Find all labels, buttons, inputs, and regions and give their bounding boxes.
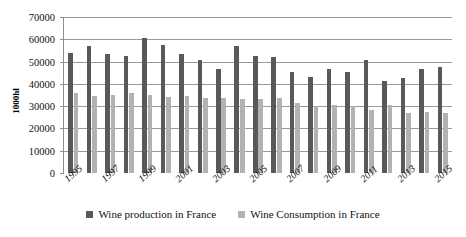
bar-wine-consumption (148, 95, 153, 173)
bar-wine-production (105, 54, 110, 173)
bar-group (434, 17, 452, 173)
bar-wine-consumption (74, 93, 79, 173)
bar-group (267, 17, 285, 173)
bar-series-container (64, 17, 452, 173)
bar-group (249, 17, 267, 173)
bar-group (175, 17, 193, 173)
y-axis-tick-mark (60, 17, 64, 18)
bar-group (138, 17, 156, 173)
bar-group (360, 17, 378, 173)
bar-wine-consumption (203, 98, 208, 173)
bar-wine-consumption (92, 96, 97, 173)
legend-label: Wine Consumption in France (250, 208, 379, 220)
bar-wine-production (179, 54, 184, 173)
bar-wine-consumption (351, 106, 356, 173)
chart-legend: Wine production in FranceWine Consumptio… (0, 208, 466, 220)
bar-wine-consumption (111, 95, 116, 173)
y-axis-tick-label: 10000 (29, 145, 55, 156)
bar-group (304, 17, 322, 173)
legend-swatch-icon (238, 211, 245, 218)
legend-swatch-icon (86, 211, 93, 218)
bar-wine-production (142, 38, 147, 173)
bar-group (415, 17, 433, 173)
bar-wine-production (124, 56, 129, 173)
bar-wine-production (438, 67, 443, 173)
bar-wine-production (419, 69, 424, 173)
bar-wine-consumption (277, 98, 282, 173)
bar-wine-production (364, 60, 369, 173)
bar-wine-consumption (314, 106, 319, 173)
bar-wine-production (401, 78, 406, 173)
x-axis-tick-labels: 1995199719992001200320052007200920112013… (64, 176, 452, 212)
bar-wine-production (161, 45, 166, 173)
bar-group (397, 17, 415, 173)
y-axis-tick-label: 50000 (29, 56, 55, 67)
y-axis-tick-label: 20000 (29, 123, 55, 134)
bar-wine-production (216, 69, 221, 173)
legend-label: Wine production in France (98, 208, 216, 220)
bar-group (193, 17, 211, 173)
bar-group (212, 17, 230, 173)
bar-group (286, 17, 304, 173)
bar-group (323, 17, 341, 173)
plot-area (64, 17, 452, 173)
bar-wine-production (198, 60, 203, 173)
y-axis-tick-mark (60, 151, 64, 152)
bar-group (230, 17, 248, 173)
y-axis-tick-label: 60000 (29, 34, 55, 45)
bar-group (82, 17, 100, 173)
y-axis-tick-mark (60, 106, 64, 107)
y-axis-tick-label: 70000 (29, 12, 55, 23)
bar-group (156, 17, 174, 173)
bar-wine-consumption (425, 112, 430, 173)
bar-wine-consumption (388, 105, 393, 173)
bar-wine-production (327, 69, 332, 173)
bar-chart: 1000hl 010000200003000040000500006000070… (0, 0, 466, 237)
legend-item[interactable]: Wine Consumption in France (238, 208, 379, 220)
y-axis-tick-label: 40000 (29, 78, 55, 89)
bar-wine-consumption (129, 93, 134, 173)
y-axis-tick-labels: 010000200003000040000500006000070000 (0, 17, 62, 173)
legend-item[interactable]: Wine production in France (86, 208, 216, 220)
bar-group (378, 17, 396, 173)
bar-wine-consumption (185, 96, 190, 173)
bar-group (119, 17, 137, 173)
bar-wine-production (290, 72, 295, 173)
y-axis-tick-mark (60, 84, 64, 85)
bar-wine-production (382, 81, 387, 173)
bar-wine-consumption (166, 97, 171, 173)
bar-group (101, 17, 119, 173)
bar-group (341, 17, 359, 173)
y-axis-tick-mark (60, 39, 64, 40)
bar-wine-production (345, 72, 350, 173)
y-axis-tick-mark (60, 62, 64, 63)
bar-group (64, 17, 82, 173)
bar-wine-production (253, 56, 258, 173)
y-axis-tick-label: 0 (50, 168, 55, 179)
bar-wine-production (271, 57, 276, 173)
bar-wine-consumption (240, 99, 245, 173)
bar-wine-production (87, 46, 92, 173)
bar-wine-production (68, 53, 73, 173)
y-axis-tick-mark (60, 128, 64, 129)
y-axis-tick-label: 30000 (29, 101, 55, 112)
bar-wine-production (308, 77, 313, 173)
bar-wine-production (234, 46, 239, 173)
